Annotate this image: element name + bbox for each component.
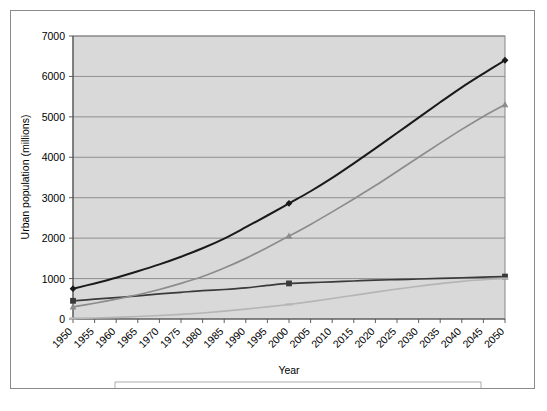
y-tick-label: 2000 — [42, 232, 66, 244]
x-tick-label: 2025 — [373, 325, 398, 350]
x-tick-label: 1960 — [93, 325, 118, 350]
x-tick-label: 1965 — [114, 325, 139, 350]
x-tick-label: 1995 — [244, 325, 269, 350]
x-tick-label: 2050 — [481, 325, 506, 350]
x-tick-label: 2040 — [438, 325, 463, 350]
x-tick-label: 1950 — [49, 325, 74, 350]
y-axis-tick-labels: 01000200030004000500060007000 — [42, 30, 66, 325]
x-tick-label: 2015 — [330, 325, 355, 350]
legend-label-world: World — [142, 387, 169, 388]
y-tick-label: 0 — [59, 313, 65, 325]
x-tick-label: 1980 — [179, 325, 204, 350]
x-axis-ticks — [73, 319, 505, 323]
data-marker-developed — [286, 281, 292, 287]
x-tick-label: 1985 — [201, 325, 226, 350]
legend-label-least-developed: Least developed — [384, 387, 461, 388]
x-tick-label: 1975 — [157, 325, 182, 350]
x-tick-label: 2010 — [309, 325, 334, 350]
y-tick-label: 1000 — [42, 273, 66, 285]
y-tick-label: 5000 — [42, 111, 66, 123]
x-axis-title: Year — [278, 364, 300, 376]
y-tick-label: 4000 — [42, 151, 66, 163]
data-marker-developed — [70, 298, 76, 304]
x-tick-label: 1990 — [222, 325, 247, 350]
y-tick-label: 6000 — [42, 70, 66, 82]
y-tick-label: 7000 — [42, 30, 66, 42]
legend: WorldDevelopedDevelopingLeast developed — [115, 382, 481, 388]
x-tick-label: 2035 — [417, 325, 442, 350]
x-tick-label: 2000 — [265, 325, 290, 350]
x-tick-label: 2045 — [460, 325, 485, 350]
legend-label-developing: Developing — [292, 387, 345, 388]
x-tick-label: 2020 — [352, 325, 377, 350]
y-axis-title: Urban population (millions) — [19, 115, 31, 240]
legend-label-developed: Developed — [204, 387, 254, 388]
y-tick-label: 3000 — [42, 192, 66, 204]
x-tick-label: 1970 — [136, 325, 161, 350]
x-tick-label: 2030 — [395, 325, 420, 350]
x-axis-tick-labels: 1950195519601965197019751980198519901995… — [49, 325, 506, 350]
x-tick-label: 1955 — [71, 325, 96, 350]
y-axis-ticks — [69, 36, 73, 319]
line-chart: 01000200030004000500060007000 1950195519… — [11, 11, 534, 388]
chart-container: 01000200030004000500060007000 1950195519… — [10, 10, 535, 389]
plot-area-background — [73, 36, 505, 319]
x-tick-label: 2005 — [287, 325, 312, 350]
